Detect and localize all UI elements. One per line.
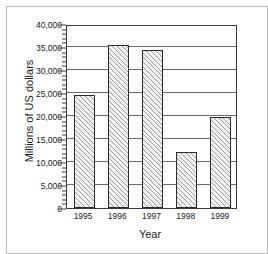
x-axis-tick-label: 1997 — [142, 211, 161, 221]
y-axis-tick-label: 20,000 — [18, 112, 62, 122]
y-axis-tick-label: 15,000 — [18, 135, 62, 145]
bar — [108, 45, 129, 208]
y-axis-major-tick — [58, 117, 66, 118]
y-axis-tick-label: 10,000 — [18, 158, 62, 168]
x-axis-tick-label: 1995 — [74, 211, 93, 221]
bar — [74, 95, 95, 208]
y-axis-tick-label: 40,000 — [18, 20, 62, 30]
bar — [210, 117, 231, 208]
y-axis-major-tick — [58, 94, 66, 95]
y-axis-tick-labels: 05,00010,00015,00020,00025,00030,00035,0… — [14, 25, 62, 209]
bar — [176, 152, 197, 208]
x-axis-tick-label: 1999 — [210, 211, 229, 221]
x-axis-title: Year — [62, 228, 238, 240]
x-axis-tick-labels: 19951996199719981999 — [66, 211, 237, 225]
y-axis-major-tick — [58, 71, 66, 72]
x-axis-tick-label: 1998 — [176, 211, 195, 221]
y-axis-major-tick — [58, 163, 66, 164]
bar — [142, 50, 163, 208]
y-axis-tick-label: 5,000 — [18, 181, 62, 191]
y-axis-tick-label: 0 — [18, 204, 62, 214]
plot-area — [66, 25, 237, 209]
y-axis-tick-label: 30,000 — [18, 66, 62, 76]
y-axis-major-tick — [58, 140, 66, 141]
y-axis-major-tick — [58, 209, 66, 210]
y-axis-major-tick — [58, 186, 66, 187]
y-axis-tick-label: 35,000 — [18, 43, 62, 53]
x-axis-tick-label: 1996 — [108, 211, 127, 221]
y-axis-tick-label: 25,000 — [18, 89, 62, 99]
bar-series — [67, 26, 236, 208]
y-axis-major-tick — [58, 48, 66, 49]
y-axis-major-tick — [58, 25, 66, 26]
y-axis-tick-marks — [58, 25, 66, 209]
